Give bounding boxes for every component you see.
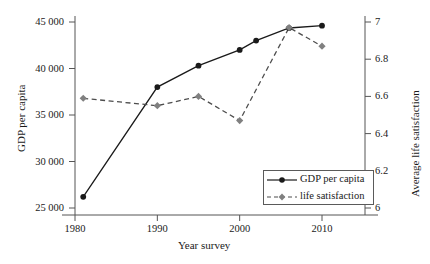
chart-legend[interactable]: GDP per capita life satisfaction [263,170,374,205]
data-point-1-1 [154,102,161,109]
x-tick-label-0: 1980 [50,224,100,235]
y-left-tick-label-1: 30 000 [14,157,64,168]
y-right-tick-label-0: 6 [375,203,415,214]
y-left-tick-label-4: 45 000 [14,17,64,28]
legend-item-gdp[interactable]: GDP per capita [264,171,375,188]
y-right-tick-label-5: 7 [375,17,415,28]
data-point-1-0 [80,95,87,102]
legend-swatch-solid-circle [264,173,300,187]
legend-label-gdp: GDP per capita [300,174,364,185]
y-axis-left-title: GDP per capita [16,85,27,152]
data-point-1-4 [285,24,292,31]
x-axis-ticks [75,215,322,221]
data-point-0-1 [154,84,160,90]
data-point-0-2 [196,63,202,69]
x-tick-label-1: 1990 [132,224,182,235]
x-tick-label-3: 2010 [297,224,347,235]
x-axis-title: Year survey [178,240,230,251]
y-right-tick-label-4: 6.8 [375,54,415,65]
chart-figure: 25 00030 00035 00040 00045 00066.26.46.6… [0,0,430,264]
data-point-0-0 [80,194,86,200]
data-point-1-3 [236,117,243,124]
data-point-1-2 [195,93,202,100]
data-point-0-6 [319,23,325,29]
data-point-0-4 [253,38,259,44]
y-left-tick-label-0: 25 000 [14,203,64,214]
legend-swatch-dashed-diamond [264,190,300,204]
data-point-1-5 [318,43,325,50]
legend-label-life-satisfaction: life satisfaction [300,191,364,202]
legend-item-life-satisfaction[interactable]: life satisfaction [264,188,375,205]
x-tick-label-2: 2000 [215,224,265,235]
y-left-tick-label-3: 40 000 [14,64,64,75]
series-line-1 [83,28,322,121]
y-axis-right-title: Average life satisfaction [410,90,421,197]
data-point-0-3 [237,47,243,53]
y-axis-left-ticks [69,22,75,208]
